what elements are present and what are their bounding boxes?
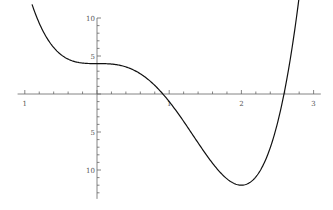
function-plot: 1123105510 <box>0 0 333 210</box>
y-tick-label: 5 <box>91 53 95 61</box>
y-tick-label: 10 <box>86 167 95 175</box>
function-curve <box>32 0 299 185</box>
y-tick-label: 5 <box>91 129 95 137</box>
x-tick-label: 3 <box>311 100 315 108</box>
axes <box>18 18 321 199</box>
y-tick-label: 10 <box>86 15 95 23</box>
x-tick-label: 1 <box>23 100 27 108</box>
x-tick-label: 2 <box>239 100 243 108</box>
tick-labels: 1123105510 <box>23 15 316 175</box>
